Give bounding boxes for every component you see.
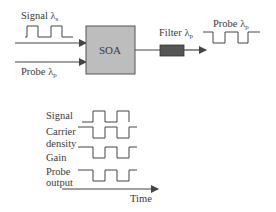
lambda-subscript: s [56, 15, 59, 23]
timing-label-carrier: Carrier [46, 126, 76, 137]
lambda-subscript: p [245, 23, 249, 31]
signal-input-label: Signal λs [21, 10, 58, 23]
soa-label: SOA [99, 45, 121, 56]
filter-label-text: Filter [159, 27, 182, 38]
timing-signal-waveform [82, 111, 129, 122]
timing-label-probe: Probe [46, 166, 71, 177]
time-axis-label: Time [130, 193, 152, 204]
signal-label-text: Signal [21, 10, 48, 21]
timing-probe-output-waveform [78, 170, 137, 181]
probe-input-label: Probe λp [21, 66, 57, 79]
lambda-subscript: p [189, 32, 193, 40]
diagram-canvas [0, 0, 276, 212]
probe-output-label: Probe λp [213, 18, 249, 31]
probe-label-text: Probe [21, 66, 46, 77]
timing-label-output: output [46, 177, 73, 188]
filter-label: Filter λp [159, 27, 193, 40]
signal-input-waveform [25, 26, 73, 37]
probe-output-waveform [203, 32, 260, 43]
timing-label-density: density [46, 138, 76, 149]
lambda-subscript: p [53, 71, 57, 79]
timing-label-gain: Gain [46, 152, 66, 163]
timing-label-signal: Signal [46, 110, 73, 121]
timing-carrier-waveform [78, 127, 137, 138]
filter-box [160, 45, 184, 56]
timing-gain-waveform [78, 147, 137, 158]
lambda-symbol: λ [50, 10, 55, 21]
probe-output-label-text: Probe [213, 18, 238, 29]
